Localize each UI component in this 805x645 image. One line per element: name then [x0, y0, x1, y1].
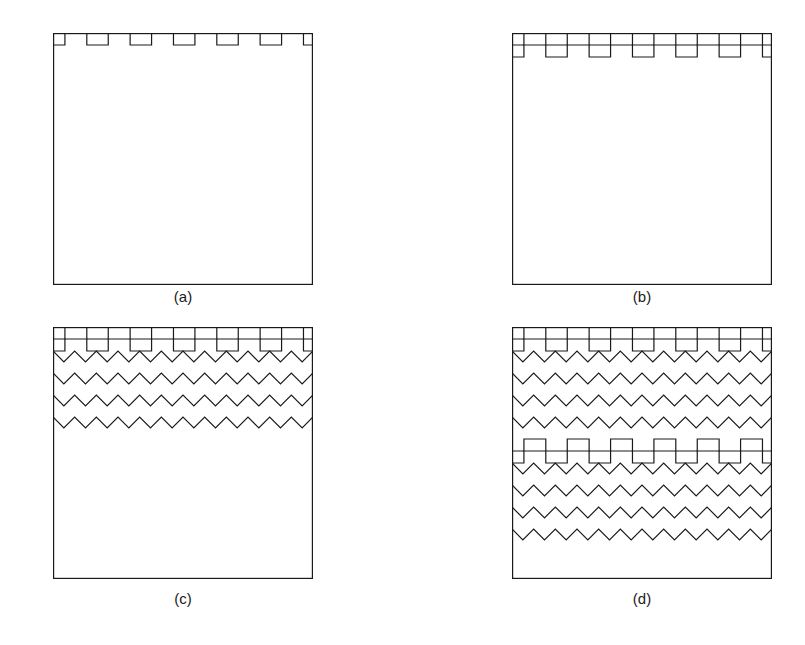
- panel-a: [53, 33, 313, 285]
- figure-canvas: (a) (b) (c) (d): [0, 0, 805, 645]
- panel-b: [512, 33, 772, 285]
- panel-d-label: (d): [512, 590, 772, 607]
- panel-b-border: [513, 34, 772, 285]
- panel-b-label: (b): [512, 288, 772, 305]
- panel-d-zigzag-wave-9: [512, 463, 772, 474]
- panel-c-label: (c): [53, 590, 313, 607]
- panel-d-zigzag-wave-11: [512, 507, 772, 518]
- panel-c: [53, 327, 313, 579]
- panel-c-zigzag-wave-5: [53, 395, 313, 406]
- panel-d-square-wave-7: [512, 439, 772, 451]
- panel-d-zigzag-wave-10: [512, 485, 772, 496]
- panel-a-square-wave-1: [53, 33, 313, 45]
- panel-c-square-wave-1: [53, 327, 313, 339]
- panel-c-zigzag-wave-3: [53, 351, 313, 362]
- panel-a-label: (a): [53, 288, 313, 305]
- panel-d-zigzag-wave-3: [512, 351, 772, 362]
- panel-d-zigzag-wave-12: [512, 529, 772, 540]
- panel-c-square-wave-2: [53, 339, 313, 351]
- panel-c-border: [54, 328, 313, 579]
- panel-d-zigzag-wave-4: [512, 373, 772, 384]
- panel-a-border: [54, 34, 313, 285]
- panel-c-drawing: [53, 327, 313, 579]
- panel-c-zigzag-wave-6: [53, 417, 313, 428]
- panel-b-square-wave-1: [512, 33, 772, 45]
- panel-c-zigzag-wave-4: [53, 373, 313, 384]
- panel-b-drawing: [512, 33, 772, 285]
- panel-d-square-wave-2: [512, 339, 772, 351]
- panel-d-border: [513, 328, 772, 579]
- panel-a-drawing: [53, 33, 313, 285]
- panel-d-zigzag-wave-5: [512, 395, 772, 406]
- panel-d-zigzag-wave-6: [512, 417, 772, 428]
- panel-b-square-wave-2: [512, 45, 772, 57]
- panel-d-square-wave-1: [512, 327, 772, 339]
- panel-d-drawing: [512, 327, 772, 579]
- panel-d-square-wave-8: [512, 451, 772, 463]
- panel-d: [512, 327, 772, 579]
